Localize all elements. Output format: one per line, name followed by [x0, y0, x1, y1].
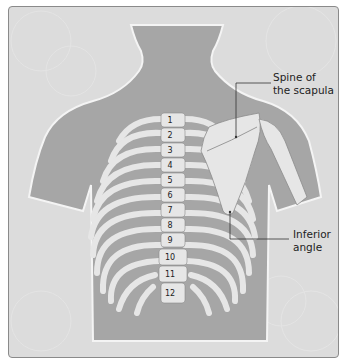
- diagram-frame: Spine of the scapula Inferior angle 1 2 …: [8, 6, 339, 358]
- vertebra-number: 7: [163, 206, 177, 215]
- vertebra-number: 6: [163, 191, 177, 200]
- vertebra-number: 8: [163, 221, 177, 230]
- vertebra-number: 3: [163, 146, 177, 155]
- vertebra-number: 12: [163, 289, 177, 298]
- label-line: Spine of: [273, 71, 334, 84]
- vertebra-number: 9: [163, 236, 177, 245]
- vertebra-number: 4: [163, 161, 177, 170]
- vertebra-number: 2: [163, 131, 177, 140]
- vertebra-number: 5: [163, 176, 177, 185]
- label-line: Inferior: [293, 228, 331, 241]
- label-spine-of-scapula: Spine of the scapula: [273, 71, 334, 96]
- label-line: angle: [293, 241, 331, 254]
- vertebra-number: 10: [163, 253, 177, 262]
- label-line: the scapula: [273, 84, 334, 97]
- label-inferior-angle: Inferior angle: [293, 228, 331, 253]
- vertebra-number: 1: [163, 116, 177, 125]
- vertebra-number: 11: [163, 270, 177, 279]
